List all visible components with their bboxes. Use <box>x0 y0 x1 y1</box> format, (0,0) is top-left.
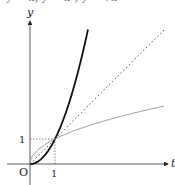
function-plot: y t O 1 1 <box>0 0 175 185</box>
x-axis-label: t <box>171 157 175 170</box>
y-axis-label: y <box>26 6 34 19</box>
curve-0 <box>30 29 88 164</box>
origin-label: O <box>19 166 28 179</box>
curve-2 <box>30 106 164 164</box>
x-tick-1: 1 <box>51 168 57 179</box>
curve-1 <box>30 30 164 164</box>
y-tick-1: 1 <box>19 134 25 145</box>
curves <box>30 29 164 164</box>
